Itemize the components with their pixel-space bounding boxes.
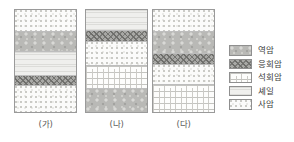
layer-na-1-shale xyxy=(86,10,147,31)
column-na-label: (나) xyxy=(85,119,148,129)
column-da-label: (다) xyxy=(152,119,215,129)
layer-na-3-sandstone xyxy=(86,42,147,66)
legend-item-tuff: 응회암 xyxy=(229,58,291,71)
legend: 역암 응회암 석회암 셰일 사암 xyxy=(229,44,291,112)
legend-label-tuff: 응회암 xyxy=(258,59,281,70)
layer-ga-3-shale xyxy=(15,52,76,76)
column-ga: (가) xyxy=(14,9,77,129)
legend-label-limestone: 석회암 xyxy=(258,72,281,83)
column-ga-label: (가) xyxy=(14,119,77,129)
layer-da-4-sandstone xyxy=(153,65,214,85)
legend-swatch-limestone-icon xyxy=(229,72,252,83)
column-na-stack xyxy=(85,9,148,113)
layer-da-2-conglomerate xyxy=(153,32,214,53)
legend-swatch-sandstone-icon xyxy=(229,99,252,110)
legend-item-sandstone: 사암 xyxy=(229,98,291,111)
layer-da-5-limestone xyxy=(153,85,214,112)
column-da-stack xyxy=(152,9,215,113)
legend-item-limestone: 석회암 xyxy=(229,71,291,84)
layer-ga-4-tuff xyxy=(15,76,76,86)
column-da: (다) xyxy=(152,9,215,129)
layer-na-4-limestone xyxy=(86,66,147,88)
legend-swatch-shale-icon xyxy=(229,86,252,97)
legend-label-conglomerate: 역암 xyxy=(258,45,274,56)
legend-item-shale: 셰일 xyxy=(229,85,291,98)
layer-ga-1-sandstone xyxy=(15,10,76,32)
layer-na-2-tuff xyxy=(86,31,147,41)
legend-swatch-tuff-icon xyxy=(229,59,252,70)
legend-label-shale: 셰일 xyxy=(258,86,274,97)
layer-ga-5-sandstone xyxy=(15,86,76,112)
column-na: (나) xyxy=(85,9,148,129)
layer-da-3-tuff xyxy=(153,54,214,65)
layer-na-5-conglomerate xyxy=(86,89,147,112)
layer-ga-2-conglomerate xyxy=(15,32,76,51)
legend-item-conglomerate: 역암 xyxy=(229,44,291,57)
legend-label-sandstone: 사암 xyxy=(258,99,274,110)
stratigraphic-columns-figure: (가) (나) (다) xyxy=(0,0,294,142)
columns-area: (가) (나) (다) xyxy=(0,0,226,142)
layer-da-1-sandstone xyxy=(153,10,214,32)
legend-swatch-conglomerate-icon xyxy=(229,45,252,56)
column-ga-stack xyxy=(14,9,77,113)
